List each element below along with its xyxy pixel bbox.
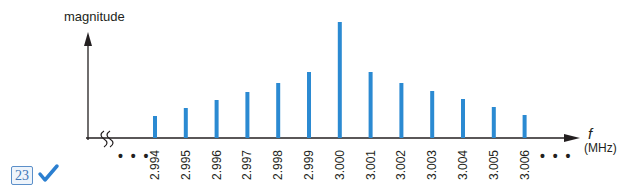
bar-2.999	[307, 72, 311, 138]
bar-3.004	[461, 99, 465, 138]
axis-break-icon	[101, 131, 113, 147]
x-tick-label: 2.999	[302, 150, 316, 180]
bar-3.003	[430, 91, 434, 138]
x-tick-label: 3.002	[394, 150, 408, 180]
bar-2.995	[184, 108, 188, 138]
ellipsis-left: • • •	[118, 148, 150, 164]
x-tick-label: 3.001	[364, 150, 378, 180]
bar-2.994	[153, 116, 157, 138]
bar-3.006	[523, 115, 527, 138]
x-tick-label: 3.003	[425, 150, 439, 180]
bar-3.000	[338, 22, 342, 138]
bar-3.002	[399, 83, 403, 138]
figure-number-badge: 23	[11, 166, 33, 185]
x-tick-label: 2.996	[210, 150, 224, 180]
bar-2.998	[276, 83, 280, 138]
x-tick-label: 2.998	[271, 150, 285, 180]
y-axis-arrowhead-icon	[84, 32, 92, 46]
bar-3.005	[492, 107, 496, 138]
x-tick-label: 3.006	[518, 150, 532, 180]
bar-3.001	[369, 72, 373, 138]
bars-group	[153, 22, 527, 138]
x-tick-label: 3.005	[487, 150, 501, 180]
x-tick-label: 2.997	[240, 150, 254, 180]
x-tick-label: 2.995	[179, 150, 193, 180]
x-tick-label: 3.004	[456, 150, 470, 180]
x-tick-label: 3.000	[333, 150, 347, 180]
ellipsis-right: • • •	[540, 148, 572, 164]
bar-2.996	[215, 100, 219, 138]
bar-2.997	[245, 92, 249, 138]
x-axis-arrowhead-icon	[564, 134, 580, 142]
